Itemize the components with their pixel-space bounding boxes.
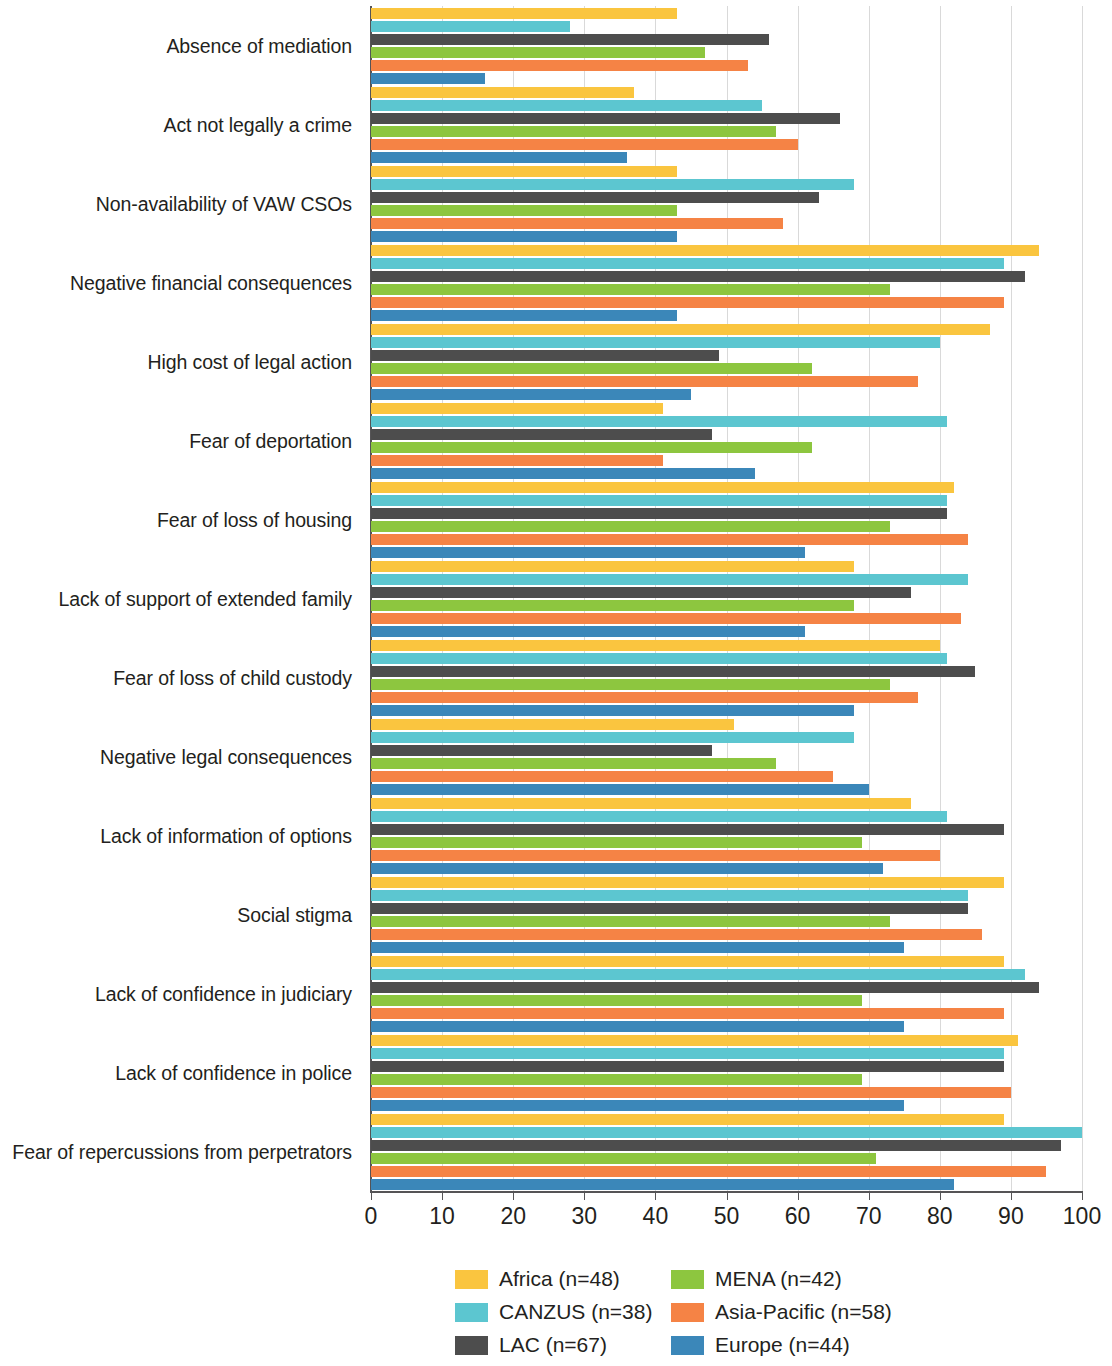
legend-label: CANZUS (n=38) [499, 1300, 652, 1324]
bar-group [371, 482, 1082, 558]
legend-label: Asia-Pacific (n=58) [715, 1300, 892, 1324]
bar [371, 179, 854, 190]
bar [371, 547, 805, 558]
legend-item[interactable]: MENA (n=42) [671, 1263, 971, 1295]
bar [371, 284, 890, 295]
bar-group [371, 87, 1082, 163]
bar-group [371, 245, 1082, 321]
bar-group [371, 166, 1082, 242]
x-axis-tick-label: 10 [412, 1203, 472, 1230]
bar [371, 1087, 1011, 1098]
bar [371, 916, 890, 927]
category-label: Social stigma [0, 904, 352, 926]
bar [371, 100, 762, 111]
bar [371, 903, 968, 914]
bar [371, 403, 663, 414]
bar [371, 1048, 1004, 1059]
bar [371, 482, 954, 493]
bar [371, 245, 1039, 256]
bar [371, 271, 1025, 282]
category-label: Act not legally a crime [0, 114, 352, 136]
bar [371, 929, 982, 940]
legend-item[interactable]: Asia-Pacific (n=58) [671, 1296, 971, 1328]
bar [371, 1074, 862, 1085]
bar [371, 34, 769, 45]
bar [371, 850, 940, 861]
bar [371, 534, 968, 545]
bar [371, 192, 819, 203]
legend-swatch-icon [455, 1270, 488, 1289]
bar [371, 1114, 1004, 1125]
bar [371, 1100, 904, 1111]
bar [371, 258, 1004, 269]
bar [371, 218, 783, 229]
legend-label: Europe (n=44) [715, 1333, 850, 1357]
bar [371, 231, 677, 242]
x-axis-tick-label: 80 [910, 1203, 970, 1230]
x-axis-tick [371, 1191, 372, 1200]
legend-item[interactable]: Europe (n=44) [671, 1329, 971, 1361]
bar [371, 574, 968, 585]
bar [371, 1021, 904, 1032]
bar [371, 692, 918, 703]
category-label: Fear of loss of housing [0, 509, 352, 531]
bar-group [371, 8, 1082, 84]
bar [371, 152, 627, 163]
bar [371, 798, 911, 809]
x-axis: 0102030405060708090100 [371, 1191, 1082, 1241]
bar [371, 205, 677, 216]
bar [371, 139, 798, 150]
bar [371, 47, 705, 58]
bar [371, 969, 1025, 980]
category-label: Lack of support of extended family [0, 588, 352, 610]
bar [371, 1153, 876, 1164]
bar [371, 784, 869, 795]
category-label: Lack of information of options [0, 825, 352, 847]
legend-label: Africa (n=48) [499, 1267, 620, 1291]
bar [371, 982, 1039, 993]
bar [371, 613, 961, 624]
bar [371, 587, 911, 598]
x-axis-tick [1011, 1191, 1012, 1200]
bar-group [371, 403, 1082, 479]
category-label: Lack of confidence in police [0, 1062, 352, 1084]
legend-swatch-icon [455, 1336, 488, 1355]
bar [371, 877, 1004, 888]
bar [371, 1127, 1082, 1138]
bar [371, 297, 1004, 308]
bar-group [371, 561, 1082, 637]
category-label: Non-availability of VAW CSOs [0, 193, 352, 215]
x-axis-tick-label: 20 [483, 1203, 543, 1230]
bar [371, 1166, 1046, 1177]
x-axis-tick [655, 1191, 656, 1200]
bar-group [371, 640, 1082, 716]
bar [371, 561, 854, 572]
bar-group [371, 956, 1082, 1032]
bar [371, 758, 776, 769]
legend: Africa (n=48)CANZUS (n=38)LAC (n=67) MEN… [455, 1263, 1095, 1363]
bar-group [371, 1114, 1082, 1190]
bar [371, 350, 719, 361]
bar [371, 376, 918, 387]
bar [371, 166, 677, 177]
x-axis-tick [1082, 1191, 1083, 1200]
bar [371, 389, 691, 400]
bar [371, 942, 904, 953]
bar [371, 429, 712, 440]
bar-group [371, 798, 1082, 874]
category-label: Fear of deportation [0, 430, 352, 452]
bar [371, 324, 990, 335]
category-label: Absence of mediation [0, 35, 352, 57]
bar [371, 863, 883, 874]
bar [371, 732, 854, 743]
legend-swatch-icon [671, 1303, 704, 1322]
bar [371, 811, 947, 822]
x-axis-tick [940, 1191, 941, 1200]
legend-swatch-icon [455, 1303, 488, 1322]
bar [371, 8, 677, 19]
bar [371, 626, 805, 637]
bar [371, 824, 1004, 835]
category-label: Fear of repercussions from perpetrators [0, 1141, 352, 1163]
bar [371, 719, 734, 730]
bars-container [371, 6, 1082, 1191]
